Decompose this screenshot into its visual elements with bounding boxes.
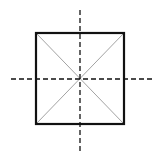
square-symmetry-diagram	[0, 0, 164, 156]
background	[0, 0, 164, 156]
